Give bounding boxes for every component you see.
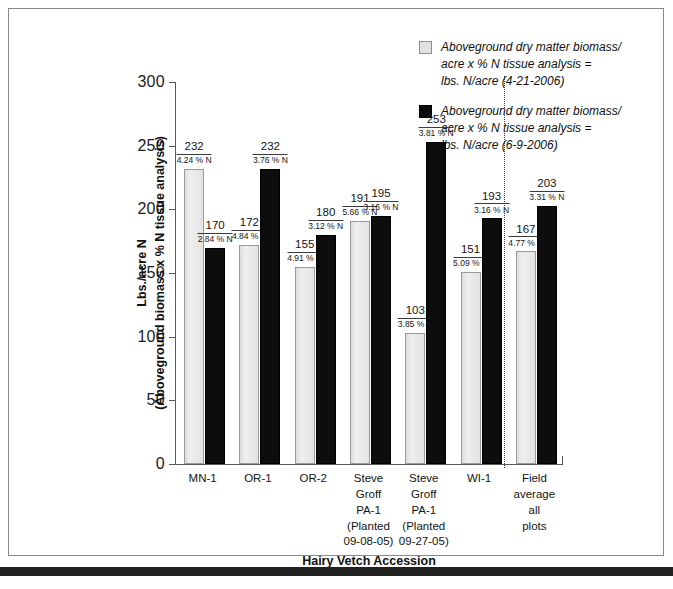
bar-apr bbox=[405, 333, 425, 464]
bar-value-label: 2533.81 % N bbox=[419, 114, 454, 139]
bar-value-label: 1953.16 % N bbox=[364, 188, 399, 213]
bar-pct-n: 3.31 % N bbox=[529, 193, 564, 203]
bar-value: 203 bbox=[529, 178, 564, 192]
bar-jun bbox=[205, 248, 225, 464]
bar-pct-n: 3.16 % N bbox=[364, 203, 399, 213]
y-axis-title-line1: Lbs./acre N bbox=[133, 239, 151, 306]
x-axis-title: Hairy Vetch Accession bbox=[175, 554, 563, 568]
bar-value-label: 1702.84 % N bbox=[198, 220, 233, 245]
x-axis-end-tick bbox=[562, 456, 563, 465]
bar-value-label: 2323.76 % N bbox=[253, 141, 288, 166]
bar-jun bbox=[537, 206, 557, 464]
legend-swatch-light bbox=[419, 41, 432, 54]
bar-apr bbox=[461, 272, 481, 464]
x-axis-category-label: OR-2 bbox=[286, 471, 341, 487]
y-axis-title-line2: (Aboveground biomass x % N tissue analys… bbox=[151, 136, 169, 410]
x-axis-category-label: Steve Groff PA-1 (Planted 09-08-05) bbox=[341, 471, 396, 550]
bar-pct-n: 2.84 % N bbox=[198, 235, 233, 245]
page-bottom-rule bbox=[0, 567, 673, 576]
bar-apr bbox=[295, 267, 315, 464]
bar-jun bbox=[316, 235, 336, 464]
group-separator-line bbox=[504, 76, 505, 468]
x-axis-category-label: OR-1 bbox=[230, 471, 285, 487]
bar-value: 170 bbox=[198, 220, 233, 234]
bar-pct-n: 3.76 % N bbox=[253, 156, 288, 166]
x-axis-category-label: Steve Groff PA-1 (Planted 09-27-05) bbox=[396, 471, 451, 550]
x-axis-category-label: WI-1 bbox=[451, 471, 506, 487]
bar-value: 253 bbox=[419, 114, 454, 128]
y-axis-tick bbox=[169, 464, 175, 465]
bar-value-label: 1803.12 % N bbox=[308, 207, 343, 232]
bar-value: 232 bbox=[177, 141, 212, 155]
bar-value-label: 2324.24 % N bbox=[177, 141, 212, 166]
bar-jun bbox=[482, 218, 502, 464]
x-axis-line bbox=[175, 464, 563, 465]
bar-value: 180 bbox=[308, 207, 343, 221]
bar-apr bbox=[239, 245, 259, 464]
bar-value: 195 bbox=[364, 188, 399, 202]
bar-jun bbox=[260, 169, 280, 464]
figure-frame: Aboveground dry matter biomass/ acre x %… bbox=[8, 8, 664, 556]
x-axis-category-label: MN-1 bbox=[175, 471, 230, 487]
x-axis-category-label: Field average all plots bbox=[507, 471, 562, 534]
bar-pct-n: 4.24 % N bbox=[177, 156, 212, 166]
bar-jun bbox=[426, 142, 446, 464]
bar-pct-n: 3.81 % N bbox=[419, 129, 454, 139]
bar-apr bbox=[516, 251, 536, 464]
bar-value: 232 bbox=[253, 141, 288, 155]
bar-apr bbox=[184, 169, 204, 464]
bar-value-label: 2033.31 % N bbox=[529, 178, 564, 203]
bar-apr bbox=[350, 221, 370, 464]
bar-pct-n: 3.12 % N bbox=[308, 222, 343, 232]
bar-jun bbox=[371, 216, 391, 464]
y-axis-title: Lbs./acre N (Aboveground biomass x % N t… bbox=[131, 82, 171, 464]
